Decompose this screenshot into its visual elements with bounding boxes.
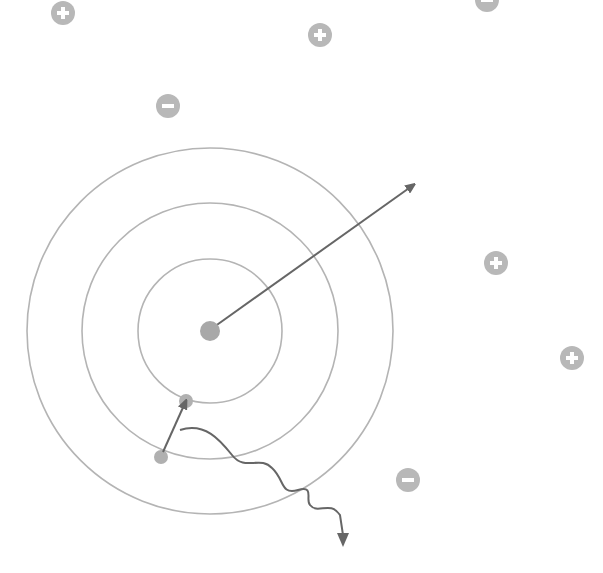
transition-arrow xyxy=(163,403,185,452)
transition-arrow-line xyxy=(163,403,185,452)
diagram-canvas xyxy=(0,0,603,573)
positive-charge-icon xyxy=(560,346,584,370)
photon-wave-line xyxy=(180,428,343,535)
nucleus xyxy=(200,321,220,341)
positive-charge-icon xyxy=(484,251,508,275)
charges xyxy=(51,0,584,492)
negative-charge-icon xyxy=(396,468,420,492)
negative-charge-icon xyxy=(156,94,180,118)
electron-final-position xyxy=(179,394,193,408)
photon-wave xyxy=(180,428,349,547)
positive-charge-icon xyxy=(51,1,75,25)
nucleus-dot xyxy=(200,321,220,341)
negative-charge-icon xyxy=(475,0,499,12)
positive-charge-icon xyxy=(308,23,332,47)
electron-initial-position xyxy=(154,450,168,464)
atom-diagram xyxy=(0,0,603,573)
photon-arrowhead-icon xyxy=(337,533,349,547)
